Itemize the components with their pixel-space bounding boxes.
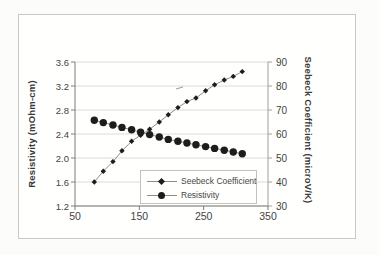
data-point-circle (156, 133, 163, 140)
data-point-diamond (231, 74, 236, 79)
y-right-tick-label: 90 (276, 57, 298, 68)
data-point-diamond (222, 77, 227, 82)
data-point-circle (165, 136, 172, 143)
data-point-diamond (212, 82, 217, 87)
data-point-circle (128, 126, 135, 133)
data-point-circle (221, 147, 228, 154)
y-left-tick-label: 1.6 (40, 177, 69, 188)
legend-label-resistivity: Resistivity (177, 190, 219, 200)
data-point-circle (192, 141, 199, 148)
data-point-circle (202, 143, 209, 150)
data-point-circle (230, 148, 237, 155)
scan-artifact (176, 87, 183, 89)
y-right-tick-label: 40 (276, 177, 298, 188)
data-point-circle (137, 129, 144, 136)
data-point-circle (91, 117, 98, 124)
legend-item-seebeck: Seebeck Coefficient (147, 174, 256, 188)
y-right-tick-label: 60 (276, 129, 298, 140)
y-right-tick-label: 70 (276, 105, 298, 116)
y-right-tick-label: 80 (276, 81, 298, 92)
data-point-circle (109, 121, 116, 128)
legend: Seebeck Coefficient Resistivity (140, 170, 257, 204)
y-right-tick-label: 50 (276, 153, 298, 164)
data-point-circle (211, 145, 218, 152)
data-point-circle (146, 131, 153, 138)
legend-label-seebeck: Seebeck Coefficient (177, 176, 256, 186)
series-line-diamond (94, 72, 242, 182)
scanned-chart-page: Resistivity (mOhm-cm) Seebeck Coefficien… (0, 0, 380, 255)
data-point-circle (183, 139, 190, 146)
data-point-diamond (240, 69, 245, 74)
y-left-tick-label: 2.4 (40, 129, 69, 140)
y-axis-left-title: Resistivity (mOhm-cm) (26, 80, 37, 188)
data-point-circle (118, 124, 125, 131)
y-axis-right-title: Seebeck Coefficient (microV/K) (303, 57, 314, 204)
y-left-tick-label: 3.6 (40, 57, 69, 68)
data-point-circle (100, 119, 107, 126)
x-tick-label: 150 (123, 210, 155, 222)
data-point-circle (239, 150, 246, 157)
data-point-diamond (184, 99, 189, 104)
y-left-tick-label: 2.0 (40, 153, 69, 164)
x-tick-label: 50 (59, 210, 91, 222)
legend-item-resistivity: Resistivity (147, 188, 256, 202)
y-left-tick-label: 3.2 (40, 81, 69, 92)
circle-marker-icon (147, 190, 177, 200)
diamond-marker-icon (147, 176, 177, 186)
data-point-circle (174, 138, 181, 145)
x-tick-label: 250 (188, 210, 220, 222)
y-left-tick-label: 2.8 (40, 105, 69, 116)
x-tick-label: 350 (252, 210, 284, 222)
